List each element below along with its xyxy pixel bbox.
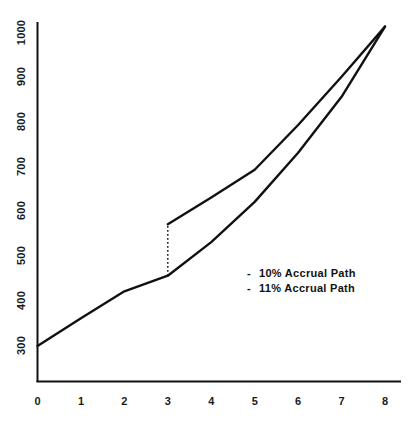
x-axis-tick-label: 8 [373,396,397,407]
series-line-10-percent [38,27,386,346]
y-axis-tick-label: 700 [16,151,29,181]
y-axis-tick-label: 800 [16,106,29,136]
x-axis-tick-label: 0 [26,396,50,407]
legend-item: - 11% Accrual Path [247,281,356,296]
y-axis-tick-label: 400 [16,285,29,315]
legend-item-label: 10% Accrual Path [259,266,356,281]
series-line-11-percent [168,27,385,225]
x-axis-tick-label: 1 [69,396,93,407]
x-axis-tick-label: 5 [243,396,267,407]
legend-item: - 10% Accrual Path [247,266,356,281]
x-axis-tick-label: 2 [112,396,136,407]
chart-plot-area [0,0,409,422]
chart-legend: - 10% Accrual Path - 11% Accrual Path [247,266,356,296]
x-axis-tick-label: 3 [156,396,180,407]
y-axis-tick-label: 600 [16,196,29,226]
legend-dash-marker: - [247,266,256,281]
legend-dash-marker: - [247,281,256,296]
chart-container: 1000900800700600500400300 012345678 - 10… [0,0,409,422]
y-axis-tick-label: 1000 [16,17,29,47]
x-axis-tick-label: 4 [199,396,223,407]
x-axis-tick-label: 6 [286,396,310,407]
y-axis-tick-label: 300 [16,330,29,360]
y-axis-tick-label: 500 [16,241,29,271]
y-axis-tick-label: 900 [16,62,29,92]
x-axis-tick-label: 7 [330,396,354,407]
legend-item-label: 11% Accrual Path [259,281,355,296]
